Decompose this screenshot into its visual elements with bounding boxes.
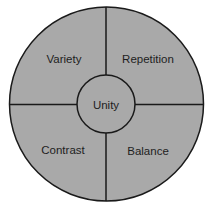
center-label-unity: Unity	[93, 99, 119, 111]
unity-wheel-diagram: Variety Repetition Unity Contrast Balanc…	[0, 0, 213, 215]
quadrant-label-contrast: Contrast	[41, 144, 85, 156]
quadrant-label-balance: Balance	[127, 145, 169, 157]
quadrant-label-variety: Variety	[47, 53, 82, 65]
quadrant-label-repetition: Repetition	[122, 53, 174, 65]
